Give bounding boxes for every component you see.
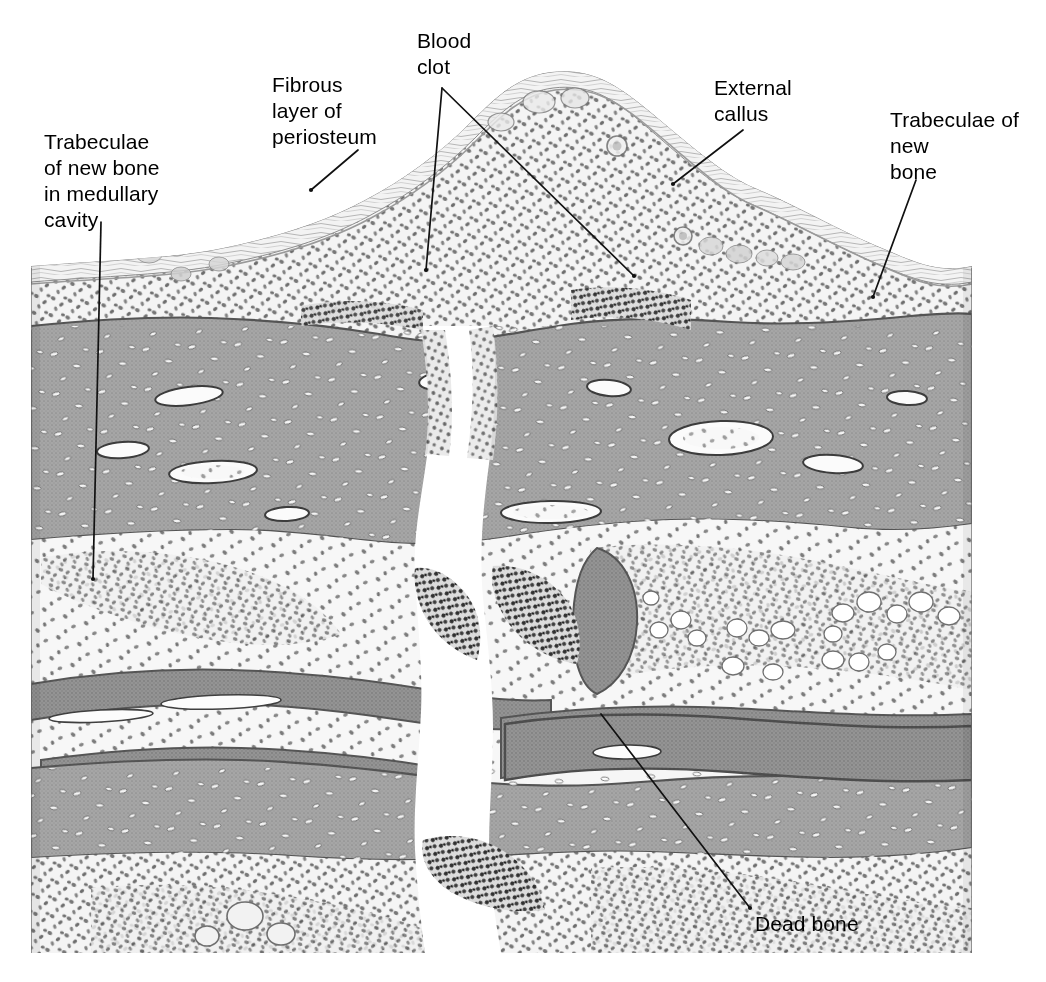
left-cut-edge (31, 266, 40, 953)
label-trabeculae-medullary: Trabeculae of new bone in medullary cavi… (44, 129, 160, 233)
dead-bone-lacuna (593, 744, 661, 759)
bone-fracture-healing-figure: Trabeculae of new bone in medullary cavi… (0, 0, 1046, 982)
label-trabeculae-new-bone: Trabeculae of new bone (890, 107, 1019, 185)
osteocyte-lacunae-lower (31, 768, 972, 860)
histology-illustration (31, 68, 972, 953)
osteocyte-lacunae-upper (31, 326, 972, 540)
label-fibrous-periosteum: Fibrous layer of periosteum (272, 72, 377, 150)
label-dead-bone: Dead bone (755, 911, 859, 937)
right-cut-edge (963, 266, 972, 953)
label-external-callus: External callus (714, 75, 792, 127)
label-blood-clot: Blood clot (417, 28, 471, 80)
